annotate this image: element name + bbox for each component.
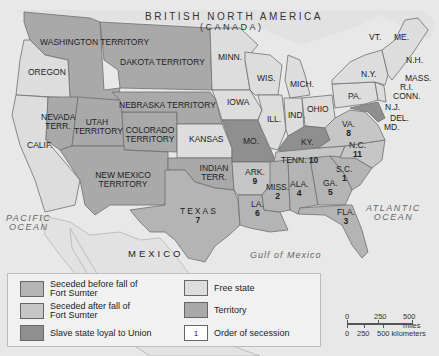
label-nebraska: NEBRASKA TERRITORY bbox=[119, 101, 216, 110]
label-kansas: KANSAS bbox=[189, 135, 224, 144]
scale-tick bbox=[347, 320, 348, 328]
label-pacific-ocean: PACIFICOCEAN bbox=[6, 214, 51, 232]
label-atlantic-ocean: ATLANTICOCEAN bbox=[366, 204, 421, 222]
label-alabama: ALA.4 bbox=[290, 180, 308, 198]
legend-item-seceded-after: Seceded after fall ofFort Sumter bbox=[20, 302, 130, 320]
legend-item-free-state: Free state bbox=[184, 280, 255, 296]
label-washington: WASHINGTON TERRITORY bbox=[40, 38, 149, 47]
scale-miles-500: 500 miles bbox=[403, 312, 435, 330]
legend-label-slave-loyal: Slave state loyal to Union bbox=[50, 329, 152, 338]
label-gulf-of-mexico: Gulf of Mexico bbox=[250, 251, 322, 260]
scale-bar: 0 250 500 miles 0 250 500 kilometers bbox=[345, 312, 435, 342]
label-louisiana: LA.6 bbox=[251, 200, 264, 218]
label-vermont: VT. bbox=[369, 33, 381, 42]
label-virginia: VA.8 bbox=[342, 120, 355, 138]
label-maryland: MD. bbox=[384, 123, 400, 132]
label-california: CALIF. bbox=[27, 141, 53, 150]
label-iowa: IOWA bbox=[227, 98, 249, 107]
label-pennsylvania: PA. bbox=[348, 92, 361, 101]
label-ohio: OHIO bbox=[307, 105, 329, 114]
label-wisconsin: WIS. bbox=[257, 74, 275, 83]
legend-swatch-territory bbox=[184, 302, 208, 318]
legend-label-order-of-secession: Order of secession bbox=[214, 329, 290, 338]
scale-tick bbox=[364, 324, 365, 328]
legend-item-slave-loyal: Slave state loyal to Union bbox=[20, 325, 152, 341]
label-utah: UTAH TERRITORY bbox=[74, 118, 120, 136]
label-maine: ME. bbox=[394, 33, 409, 42]
label-new-york: N.Y. bbox=[361, 70, 376, 79]
label-tennessee: TENN. 10 bbox=[281, 156, 318, 165]
label-new-jersey: N.J. bbox=[385, 103, 400, 112]
scale-tick bbox=[412, 320, 413, 324]
legend-swatch-free-state bbox=[184, 280, 208, 296]
label-missouri: MO. bbox=[243, 137, 259, 146]
label-illinois: ILL. bbox=[267, 115, 281, 124]
label-kentucky: KY. bbox=[301, 138, 314, 147]
canada-label: BRITISH NORTH AMERICA bbox=[145, 12, 323, 21]
label-arkansas: ARK.9 bbox=[245, 168, 265, 186]
label-mexico: MEXICO bbox=[128, 249, 183, 258]
label-nevada: NEVADA TERR. bbox=[41, 113, 75, 131]
label-north-carolina: N.C.11 bbox=[349, 141, 366, 159]
legend-item-order-of-secession: 1 Order of secession bbox=[184, 325, 290, 341]
scale-tick bbox=[383, 324, 384, 328]
label-dakota: DAKOTA TERRITORY bbox=[120, 58, 205, 67]
label-minnesota: MINN. bbox=[218, 53, 242, 62]
label-south-carolina: S.C.1 bbox=[336, 165, 353, 183]
label-colorado: COLORADO TERRITORY bbox=[124, 126, 176, 144]
scale-miles-250: 250 bbox=[374, 312, 387, 321]
canada-sublabel: (CANADA) bbox=[200, 23, 264, 32]
label-oregon: OREGON bbox=[28, 68, 66, 77]
label-georgia: GA.5 bbox=[323, 179, 338, 197]
label-michigan: MICH. bbox=[290, 80, 314, 89]
legend: Seceded before fall ofFort Sumter Secede… bbox=[7, 273, 321, 347]
legend-label-free-state: Free state bbox=[214, 284, 255, 293]
label-new-mexico: NEW MEXICO TERRITORY bbox=[90, 171, 156, 189]
label-indiana: IND. bbox=[288, 111, 305, 120]
scale-tick bbox=[378, 320, 379, 324]
legend-label-territory: Territory bbox=[214, 306, 247, 315]
label-connecticut: CONN. bbox=[393, 92, 420, 101]
legend-swatch-slave-loyal bbox=[20, 325, 44, 341]
label-mississippi: MISS.2 bbox=[266, 183, 289, 201]
label-new-hampshire: N.H. bbox=[406, 56, 423, 65]
legend-label-seceded-after: Seceded after fall ofFort Sumter bbox=[50, 302, 130, 320]
scale-km-0: 0 bbox=[345, 329, 349, 338]
legend-item-seceded-before: Seceded before fall ofFort Sumter bbox=[20, 280, 138, 298]
legend-item-territory: Territory bbox=[184, 302, 247, 318]
legend-swatch-order-sample: 1 bbox=[184, 325, 208, 341]
legend-swatch-seceded-after bbox=[20, 303, 44, 319]
scale-km-500: 500 kilometers bbox=[377, 329, 426, 338]
scale-line bbox=[347, 323, 413, 325]
label-indian-territory: INDIAN TERR. bbox=[196, 164, 232, 182]
scale-km-250: 250 bbox=[357, 329, 370, 338]
label-texas: TEXAS7 bbox=[180, 207, 218, 225]
legend-label-seceded-before: Seceded before fall ofFort Sumter bbox=[50, 280, 138, 298]
legend-swatch-seceded-before bbox=[20, 281, 44, 297]
label-florida: FLA.3 bbox=[337, 208, 355, 226]
